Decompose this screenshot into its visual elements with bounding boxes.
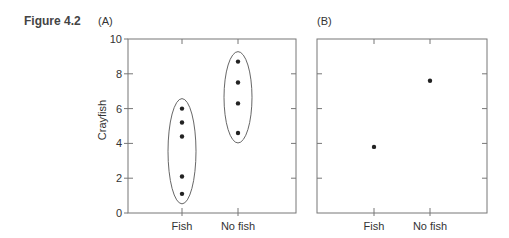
data-point-no-fish [236, 59, 240, 63]
y-tick-label: 2 [116, 172, 122, 184]
y-tick-label: 4 [116, 137, 122, 149]
y-tick-label: 8 [116, 68, 122, 80]
panel-a-ellipses [168, 52, 252, 204]
data-point-fish [180, 106, 184, 110]
y-axis-label: Crayfish [96, 100, 108, 140]
panel-a-frame [128, 39, 296, 213]
panel-a-label: (A) [98, 15, 113, 27]
data-point-no-fish [236, 101, 240, 105]
figure-label: Figure 4.2 [24, 14, 81, 28]
panel-b-label: (B) [317, 15, 332, 27]
data-point-no-fish [236, 131, 240, 135]
x-tick-label-no-fish: No fish [221, 220, 255, 232]
data-point-fish [372, 145, 376, 149]
data-point-fish [180, 174, 184, 178]
figure: Figure 4.2 (A) Crayfish 0246810FishNo fi… [0, 0, 509, 238]
data-point-no-fish [428, 79, 432, 83]
data-point-no-fish [236, 80, 240, 84]
panel-b-frame [317, 39, 487, 213]
y-tick-label: 10 [110, 33, 122, 45]
y-tick-label: 6 [116, 103, 122, 115]
y-tick-label: 0 [116, 207, 122, 219]
panel-b-points [372, 79, 432, 150]
x-tick-label-fish: Fish [172, 220, 193, 232]
panel-b-ticks: FishNo fish [317, 39, 487, 232]
x-tick-label-no-fish: No fish [413, 220, 447, 232]
panel-a: (A) Crayfish 0246810FishNo fish [96, 15, 296, 232]
x-tick-label-fish: Fish [364, 220, 385, 232]
panel-a-ticks: 0246810FishNo fish [110, 33, 296, 232]
panel-a-points [180, 59, 240, 196]
group-ellipse-fish [168, 99, 196, 204]
data-point-fish [180, 134, 184, 138]
group-ellipse-no-fish [224, 52, 252, 143]
data-point-fish [180, 192, 184, 196]
panel-b: (B) FishNo fish [317, 15, 487, 232]
data-point-fish [180, 120, 184, 124]
